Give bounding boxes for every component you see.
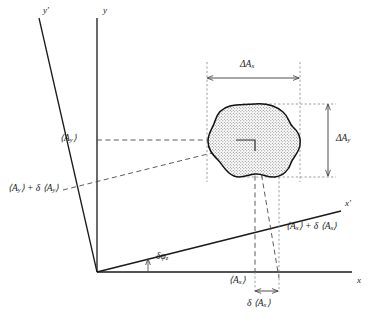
extent-ax-label: ΔAx bbox=[240, 60, 254, 70]
y-prime-axis-label: y′ bbox=[43, 6, 49, 15]
rotation-angle-label: δφz bbox=[156, 252, 168, 262]
x-axis-label: x bbox=[357, 276, 361, 285]
y-axis-label: y bbox=[103, 6, 107, 15]
y-prime-axis bbox=[39, 18, 97, 272]
diagram-canvas: y′ y x′ x ⟨Ay⟩ ⟨Ay⟩ + δ ⟨Ay⟩ ΔAx ΔAy ⟨Ax… bbox=[0, 0, 376, 322]
diagram-vector-layer bbox=[0, 0, 376, 322]
extent-ay-label: ΔAy bbox=[336, 134, 350, 144]
delta-ax-label: δ ⟨Ax⟩ bbox=[247, 299, 271, 309]
mean-ay-shift-label: ⟨Ay⟩ + δ ⟨Ay⟩ bbox=[8, 184, 59, 194]
mean-ay-label: ⟨Ay⟩ bbox=[60, 134, 77, 144]
x-prime-axis-label: x′ bbox=[345, 199, 351, 208]
mean-ax-shift-label: ⟨Ax⟩ + δ ⟨Ax⟩ bbox=[286, 222, 337, 232]
mean-ax-label: ⟨Ax⟩ bbox=[229, 276, 246, 286]
